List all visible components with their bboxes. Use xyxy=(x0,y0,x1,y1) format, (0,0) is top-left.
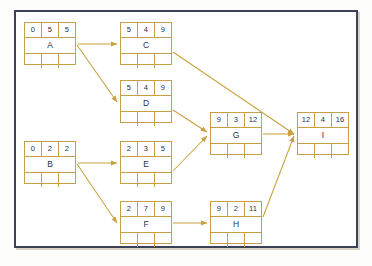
node-f-earliest-start: 2 xyxy=(121,202,138,216)
node-c-bottom-row xyxy=(121,54,171,68)
node-a-slack xyxy=(42,54,59,68)
node-c-slack xyxy=(138,54,155,68)
node-f-latest-finish xyxy=(155,233,171,247)
node-i-latest-finish xyxy=(332,144,348,158)
diagram-page: 055A549C549D022B235E279F9312G9211H12416I xyxy=(0,0,372,266)
node-a-earliest-start: 0 xyxy=(25,23,42,37)
node-d-slack xyxy=(138,112,155,126)
edge-b-f xyxy=(77,164,117,223)
node-b-duration: 2 xyxy=(42,142,59,156)
activity-node-a[interactable]: 055A xyxy=(24,22,76,65)
node-f-earliest-finish: 9 xyxy=(155,202,171,216)
edge-e-g xyxy=(173,136,207,171)
node-h-top-row: 9211 xyxy=(211,202,261,216)
activity-node-e[interactable]: 235E xyxy=(120,141,172,184)
activity-node-c[interactable]: 549C xyxy=(120,22,172,65)
node-d-top-row: 549 xyxy=(121,81,171,95)
node-c-name-row: C xyxy=(121,37,171,54)
edge-a-d xyxy=(77,45,117,102)
node-d-earliest-finish: 9 xyxy=(155,81,171,95)
node-d-name-row: D xyxy=(121,95,171,112)
node-a-duration: 5 xyxy=(42,23,59,37)
node-i-bottom-row xyxy=(298,144,348,158)
node-a-bottom-row xyxy=(25,54,75,68)
node-a-earliest-finish: 5 xyxy=(59,23,75,37)
node-e-name-row: E xyxy=(121,156,171,173)
node-f-bottom-row xyxy=(121,233,171,247)
node-g-name-row: G xyxy=(211,127,261,144)
node-b-earliest-start: 0 xyxy=(25,142,42,156)
node-a-top-row: 055 xyxy=(25,23,75,37)
activity-node-h[interactable]: 9211H xyxy=(210,201,262,244)
node-g-duration: 3 xyxy=(228,113,245,127)
node-i-label: I xyxy=(298,128,348,143)
node-f-name-row: F xyxy=(121,216,171,233)
node-b-latest-finish xyxy=(59,173,75,187)
node-h-name-row: H xyxy=(211,216,261,233)
node-g-latest-finish xyxy=(245,144,261,158)
activity-node-i[interactable]: 12416I xyxy=(297,112,349,155)
node-b-bottom-row xyxy=(25,173,75,187)
node-c-earliest-start: 5 xyxy=(121,23,138,37)
node-e-latest-finish xyxy=(155,173,171,187)
node-h-latest-finish xyxy=(245,233,261,247)
activity-node-f[interactable]: 279F xyxy=(120,201,172,244)
node-f-slack xyxy=(138,233,155,247)
node-i-top-row: 12416 xyxy=(298,113,348,127)
node-f-top-row: 279 xyxy=(121,202,171,216)
node-i-earliest-start: 12 xyxy=(298,113,315,127)
node-f-latest-start xyxy=(121,233,138,247)
node-d-earliest-start: 5 xyxy=(121,81,138,95)
diagram-frame: 055A549C549D022B235E279F9312G9211H12416I xyxy=(14,10,358,248)
node-c-label: C xyxy=(121,38,171,53)
activity-node-d[interactable]: 549D xyxy=(120,80,172,123)
node-d-latest-finish xyxy=(155,112,171,126)
node-c-earliest-finish: 9 xyxy=(155,23,171,37)
node-g-bottom-row xyxy=(211,144,261,158)
node-e-label: E xyxy=(121,157,171,172)
node-i-slack xyxy=(315,144,332,158)
node-g-label: G xyxy=(211,128,261,143)
node-e-latest-start xyxy=(121,173,138,187)
node-h-earliest-start: 9 xyxy=(211,202,228,216)
node-i-duration: 4 xyxy=(315,113,332,127)
node-d-latest-start xyxy=(121,112,138,126)
node-g-slack xyxy=(228,144,245,158)
node-b-slack xyxy=(42,173,59,187)
node-c-latest-finish xyxy=(155,54,171,68)
node-h-earliest-finish: 11 xyxy=(245,202,261,216)
node-i-latest-start xyxy=(298,144,315,158)
node-e-earliest-finish: 5 xyxy=(155,142,171,156)
node-b-label: B xyxy=(25,157,75,172)
node-i-earliest-finish: 16 xyxy=(332,113,348,127)
node-e-slack xyxy=(138,173,155,187)
node-b-earliest-finish: 2 xyxy=(59,142,75,156)
node-g-earliest-finish: 12 xyxy=(245,113,261,127)
node-d-bottom-row xyxy=(121,112,171,126)
node-a-label: A xyxy=(25,38,75,53)
node-a-latest-start xyxy=(25,54,42,68)
node-f-duration: 7 xyxy=(138,202,155,216)
node-c-duration: 4 xyxy=(138,23,155,37)
node-e-duration: 3 xyxy=(138,142,155,156)
node-a-latest-finish xyxy=(59,54,75,68)
edge-h-i xyxy=(263,136,294,217)
node-d-duration: 4 xyxy=(138,81,155,95)
node-e-top-row: 235 xyxy=(121,142,171,156)
node-e-bottom-row xyxy=(121,173,171,187)
node-i-name-row: I xyxy=(298,127,348,144)
node-f-label: F xyxy=(121,217,171,232)
activity-node-b[interactable]: 022B xyxy=(24,141,76,184)
node-c-top-row: 549 xyxy=(121,23,171,37)
node-h-bottom-row xyxy=(211,233,261,247)
node-h-label: H xyxy=(211,217,261,232)
node-h-latest-start xyxy=(211,233,228,247)
node-g-top-row: 9312 xyxy=(211,113,261,127)
node-g-earliest-start: 9 xyxy=(211,113,228,127)
node-h-duration: 2 xyxy=(228,202,245,216)
node-e-earliest-start: 2 xyxy=(121,142,138,156)
activity-node-g[interactable]: 9312G xyxy=(210,112,262,155)
node-d-label: D xyxy=(121,96,171,111)
node-h-slack xyxy=(228,233,245,247)
node-b-top-row: 022 xyxy=(25,142,75,156)
